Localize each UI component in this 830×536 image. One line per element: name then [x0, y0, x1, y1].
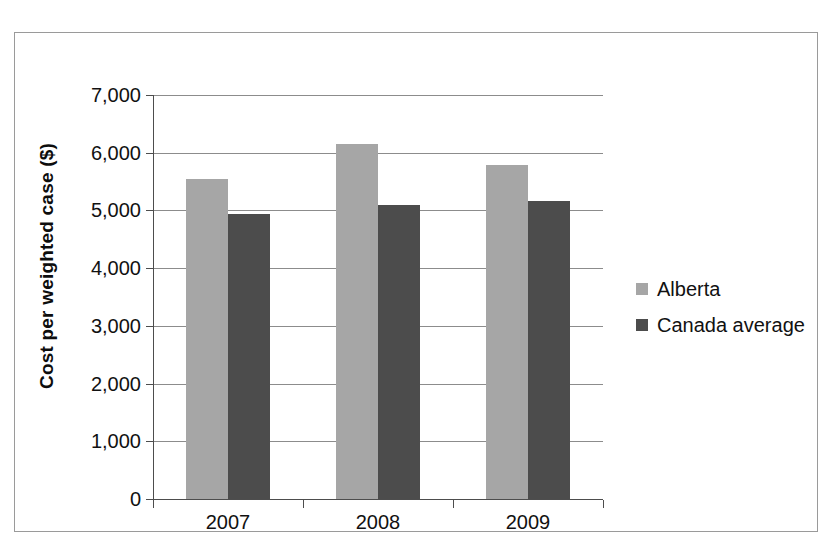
x-axis-tick-label: 2008 [303, 511, 453, 534]
chart-legend: AlbertaCanada average [636, 271, 805, 343]
y-axis-tick-label: 4,000 [51, 258, 141, 278]
bar-canada-average-2007 [228, 214, 270, 499]
x-axis-tick-mark [453, 500, 454, 508]
y-axis-tick-mark [146, 326, 154, 327]
gridline [153, 153, 603, 154]
y-axis-tick-mark [146, 153, 154, 154]
x-axis-tick-label: 2007 [153, 511, 303, 534]
y-axis-tick-mark [146, 384, 154, 385]
y-axis-tick-mark [146, 268, 154, 269]
x-axis-tick-mark [153, 500, 154, 508]
y-axis-tick-mark [146, 441, 154, 442]
y-axis-tick-mark [146, 210, 154, 211]
chart-frame: Cost per weighted case ($) 01,0002,0003,… [14, 32, 818, 532]
bar-canada-average-2009 [528, 201, 570, 499]
legend-item-label: Alberta [657, 278, 720, 301]
y-axis-tick-label: 7,000 [51, 85, 141, 105]
y-axis-tick-label: 1,000 [51, 431, 141, 451]
legend-item[interactable]: Canada average [636, 307, 805, 343]
legend-item-label: Canada average [657, 314, 805, 337]
x-axis-tick-label: 2009 [453, 511, 603, 534]
legend-swatch-icon [636, 319, 648, 331]
y-axis-tick-labels: 01,0002,0003,0004,0005,0006,0007,000 [41, 33, 141, 536]
legend-item[interactable]: Alberta [636, 271, 805, 307]
x-axis-tick-mark [603, 500, 604, 508]
y-axis-tick-label: 0 [51, 489, 141, 509]
x-axis-tick-mark [303, 500, 304, 508]
y-axis-tick-label: 6,000 [51, 143, 141, 163]
y-axis-tick-label: 3,000 [51, 316, 141, 336]
bar-alberta-2009 [486, 165, 528, 499]
bar-alberta-2008 [336, 144, 378, 499]
y-axis-tick-label: 5,000 [51, 200, 141, 220]
y-axis-tick-label: 2,000 [51, 374, 141, 394]
gridline [153, 95, 603, 96]
bar-alberta-2007 [186, 179, 228, 499]
plot-area [153, 95, 603, 499]
bar-canada-average-2008 [378, 205, 420, 499]
y-axis-tick-mark [146, 95, 154, 96]
gridline [153, 499, 603, 500]
legend-swatch-icon [636, 283, 648, 295]
